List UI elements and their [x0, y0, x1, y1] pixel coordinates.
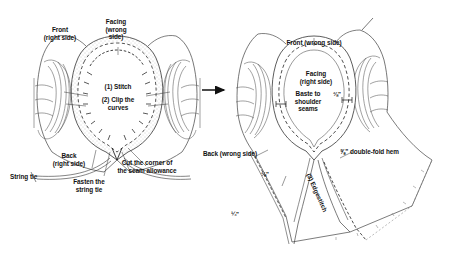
label-front-right-side: Front (right side) — [34, 26, 86, 41]
label-back-wrong-side: Back (wrong side) — [203, 150, 265, 158]
label-back-right-side: Back (right side) — [44, 152, 94, 167]
label-cut-corner-seam-allowance: Cut the corner of the seam allowance — [100, 159, 194, 174]
right-garment-figure — [236, 18, 432, 244]
label-fasten-string-tie: Fasten the string tie — [62, 178, 116, 193]
diagram-canvas: Front (right side) Facing (wrong side) (… — [0, 0, 476, 262]
label-baste-to-shoulder-seams: Baste to shoulder seams — [286, 90, 330, 113]
label-facing-right-side: Facing (right side) — [288, 70, 344, 85]
label-double-fold-hem: ⅝" double-fold hem — [340, 148, 436, 156]
label-step-1-stitch: (1) Stitch — [84, 83, 152, 91]
label-front-wrong-side: Front (wrong side) — [272, 39, 356, 47]
label-string-tie: String tie — [10, 173, 56, 181]
label-hem-allowance: ¼" — [228, 210, 242, 218]
label-neck-seam-allowance: ⅜" — [330, 90, 344, 98]
label-side-seam-allowance: ⅜" — [258, 170, 272, 178]
label-step-2-clip-curves: (2) Clip the curves — [80, 96, 156, 111]
label-facing-wrong-side: Facing (wrong side) — [96, 18, 136, 41]
